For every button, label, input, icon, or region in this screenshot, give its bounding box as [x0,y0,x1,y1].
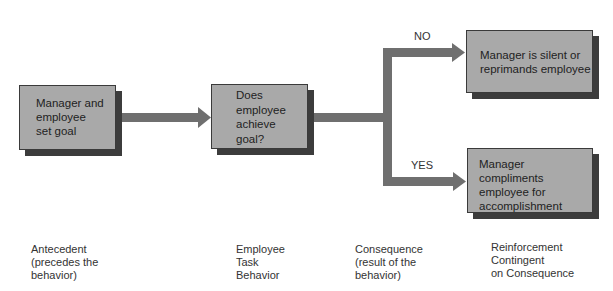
arrow-yes-branch [383,177,454,186]
no-outcome-box: Manager is silent or reprimands employee [466,30,593,93]
arrow-no-branch [383,48,453,57]
caption-consequence: Consequence (result of the behavior) [355,243,423,282]
arrowhead-icon [453,172,466,191]
caption-reinforcement: Reinforcement Contingent on Consequence [491,241,574,280]
split-vertical-connector [383,48,392,185]
caption-antecedent: Antecedent (precedes the behavior) [31,243,98,282]
antecedent-box: Manager and employee set goal [19,85,116,150]
no-branch-label: NO [414,30,431,42]
yes-outcome-text: Manager compliments employee for accompl… [479,157,592,213]
yes-outcome-box: Manager compliments employee for accompl… [467,148,593,213]
behavior-box: Does employee achieve goal? [211,84,308,149]
no-outcome-text: Manager is silent or reprimands employee [480,48,591,76]
antecedent-text: Manager and employee set goal [36,96,104,138]
caption-employee-task-behavior: Employee Task Behavior [236,243,285,282]
yes-branch-label: YES [411,159,433,171]
arrowhead-icon [198,107,211,128]
behavior-text: Does employee achieve goal? [236,88,286,146]
arrowhead-icon [452,43,465,62]
connector-behavior-to-split [308,113,391,122]
arrow-antecedent-to-behavior [115,113,199,122]
